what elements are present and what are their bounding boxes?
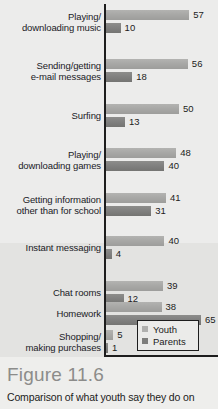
bar-youth[interactable] [106, 193, 166, 203]
legend-item-parents[interactable]: Parents [142, 335, 195, 347]
figure-caption: Comparison of what youth say they do on [7, 391, 218, 404]
bar-value-label: 50 [183, 103, 194, 114]
category-label-line1: Surfing [72, 110, 101, 121]
bar-value-label: 5 [117, 329, 122, 340]
category-label-line1: Chat rooms [53, 287, 101, 298]
category-label-line1: Instant messaging [26, 242, 101, 253]
category-label-line1: Shopping/ [59, 331, 101, 342]
category-label-line2: making purchases [0, 342, 101, 353]
bar-youth[interactable] [106, 10, 189, 20]
bar-value-label: 57 [193, 9, 204, 20]
category-label: Chat rooms [0, 287, 101, 298]
bar-value-label: 4 [116, 248, 121, 259]
legend-swatch-parents-icon [142, 338, 148, 344]
bar-value-label: 10 [125, 22, 136, 33]
bar-value-label: 56 [192, 58, 203, 69]
figure-title: Figure 11.6 [7, 364, 104, 386]
category-label-line2: other than for school [0, 205, 101, 216]
category-label: Surfing [0, 110, 101, 121]
category-label: Homework [0, 308, 101, 319]
category-label-line2: downloading games [0, 160, 101, 171]
bar-value-label: 41 [170, 192, 181, 203]
bar-parents[interactable] [106, 117, 125, 127]
legend-swatch-youth-icon [142, 326, 148, 332]
bar-value-label: 48 [180, 147, 191, 158]
category-label-line1: Getting information [23, 194, 101, 205]
bar-youth[interactable] [106, 59, 188, 69]
chart-legend: Youth Parents [137, 320, 199, 351]
bar-youth[interactable] [106, 281, 163, 291]
bar-value-label: 40 [168, 235, 179, 246]
bar-value-label: 65 [205, 314, 216, 325]
legend-label-parents: Parents [153, 336, 186, 347]
category-label-line2: downloading music [0, 22, 101, 33]
bar-value-label: 18 [136, 71, 147, 82]
category-label: Playing/downloading games [0, 149, 101, 171]
category-label-line1: Playing/ [68, 11, 101, 22]
bar-youth[interactable] [106, 148, 176, 158]
bar-youth[interactable] [106, 302, 162, 312]
category-label: Playing/downloading music [0, 11, 101, 33]
legend-label-youth: Youth [153, 324, 177, 335]
bar-value-label: 39 [167, 280, 178, 291]
bar-parents[interactable] [106, 206, 151, 216]
bar-value-label: 38 [166, 301, 177, 312]
category-label-line1: Playing/ [68, 149, 101, 160]
bar-youth[interactable] [106, 330, 113, 340]
bar-value-label: 31 [155, 205, 166, 216]
category-label: Sending/gettinge-mail messages [0, 60, 101, 82]
bar-value-label: 40 [168, 160, 179, 171]
figure-panel: Playing/downloading music5710Sending/get… [0, 0, 218, 409]
category-axis-line [104, 355, 218, 357]
bar-value-label: 13 [129, 116, 140, 127]
category-label-line1: Sending/getting [36, 60, 101, 71]
category-label-line2: e-mail messages [0, 71, 101, 82]
bar-youth[interactable] [106, 104, 179, 114]
bar-parents[interactable] [106, 249, 112, 259]
category-label: Getting informationother than for school [0, 194, 101, 216]
bar-youth[interactable] [106, 236, 164, 246]
bar-parents[interactable] [106, 72, 132, 82]
category-label: Instant messaging [0, 242, 101, 253]
bar-value-label: 1 [112, 342, 117, 353]
bar-parents[interactable] [106, 343, 108, 353]
category-label: Shopping/making purchases [0, 331, 101, 353]
bar-parents[interactable] [106, 23, 121, 33]
legend-item-youth[interactable]: Youth [142, 323, 195, 335]
category-label-line1: Homework [56, 308, 101, 319]
bar-parents[interactable] [106, 161, 164, 171]
